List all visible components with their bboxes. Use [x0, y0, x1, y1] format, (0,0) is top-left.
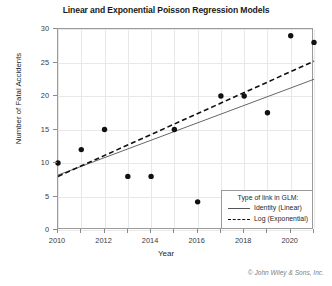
x-tick-mark: [197, 229, 198, 233]
y-axis-label: Number of Fatal Accidents: [14, 29, 23, 169]
data-point: [218, 93, 223, 98]
figure-container: Linear and Exponential Poisson Regressio…: [0, 0, 332, 286]
regression-line: [58, 61, 314, 176]
x-tick-mark: [57, 229, 58, 233]
data-point: [288, 33, 293, 38]
y-tick-mark: [53, 129, 57, 130]
data-point: [102, 127, 107, 132]
data-point: [79, 147, 84, 152]
copyright-notice: © John Wiley & Sons, Inc.: [248, 269, 324, 276]
data-point: [148, 174, 153, 179]
data-point: [311, 40, 316, 45]
regression-line: [58, 79, 314, 175]
data-point: [172, 127, 177, 132]
legend-item-label: Identity (Linear): [254, 204, 302, 211]
y-tick-mark: [53, 95, 57, 96]
x-tick-label: 2014: [130, 236, 170, 245]
y-tick-label: 5: [27, 192, 49, 201]
regression-lines: [58, 61, 314, 176]
y-tick-mark: [53, 162, 57, 163]
y-tick-mark: [53, 28, 57, 29]
x-tick-mark: [243, 229, 244, 233]
x-tick-mark: [150, 229, 151, 233]
legend-item: Identity (Linear): [228, 204, 314, 215]
x-tick-label: 2016: [177, 236, 217, 245]
x-tick-mark: [127, 229, 128, 233]
x-tick-mark: [266, 229, 267, 233]
solid-line-icon: [228, 208, 250, 209]
y-tick-label: 15: [27, 125, 49, 134]
data-point: [195, 199, 200, 204]
data-point: [265, 110, 270, 115]
x-tick-mark: [104, 229, 105, 233]
legend-title: Type of link in GLM:: [222, 194, 314, 201]
x-tick-label: 2012: [84, 236, 124, 245]
x-tick-mark: [290, 229, 291, 233]
y-tick-label: 20: [27, 91, 49, 100]
x-tick-mark: [220, 229, 221, 233]
x-tick-mark: [313, 229, 314, 233]
legend-item: Log (Exponential): [228, 215, 314, 226]
x-tick-label: 2020: [270, 236, 310, 245]
x-tick-mark: [80, 229, 81, 233]
gridline-vertical: [314, 29, 315, 228]
chart-title: Linear and Exponential Poisson Regressio…: [0, 5, 332, 15]
y-tick-mark: [53, 196, 57, 197]
x-tick-label: 2018: [223, 236, 263, 245]
y-tick-mark: [53, 62, 57, 63]
y-tick-label: 0: [27, 225, 49, 234]
gridline-horizontal: [58, 230, 312, 231]
x-tick-mark: [173, 229, 174, 233]
dashed-line-icon: [228, 219, 250, 220]
data-point: [125, 174, 130, 179]
data-point: [241, 93, 246, 98]
legend: Type of link in GLM: Identity (Linear)Lo…: [221, 190, 313, 229]
y-tick-label: 10: [27, 158, 49, 167]
y-tick-label: 25: [27, 58, 49, 67]
x-axis-label: Year: [0, 249, 332, 258]
y-tick-label: 30: [27, 24, 49, 33]
x-tick-label: 2010: [37, 236, 77, 245]
legend-item-label: Log (Exponential): [254, 215, 308, 222]
